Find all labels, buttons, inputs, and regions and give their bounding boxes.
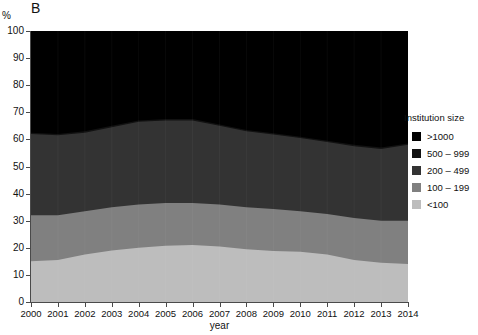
- x-axis-tick: [246, 303, 247, 307]
- x-axis-tick: [273, 303, 274, 307]
- panel-letter: B: [31, 0, 40, 16]
- legend-swatch-icon: [412, 149, 421, 158]
- x-axis-tick: [85, 303, 86, 307]
- x-axis-tick: [381, 303, 382, 307]
- y-axis-tick-label: 100: [0, 26, 24, 36]
- figure-panel-b: B % 0102030405060708090100 2000200120022…: [0, 0, 478, 335]
- y-axis-tick: [26, 85, 30, 86]
- x-axis-tick: [408, 303, 409, 307]
- y-axis-tick: [26, 221, 30, 222]
- y-axis-tick-label: 0: [0, 297, 24, 307]
- plot-svg: [31, 31, 408, 302]
- x-axis-tick: [166, 303, 167, 307]
- legend-items: >1000500 – 999200 – 499100 – 199<100: [404, 128, 478, 213]
- legend-item-label: <100: [427, 199, 448, 210]
- y-axis-tick-label: 50: [0, 162, 24, 172]
- x-axis-tick: [300, 303, 301, 307]
- x-axis-tick: [31, 303, 32, 307]
- x-axis-tick: [193, 303, 194, 307]
- y-axis-tick-label: 80: [0, 80, 24, 90]
- y-axis-tick-label: 70: [0, 107, 24, 117]
- legend: Institution size >1000500 – 999200 – 499…: [404, 112, 478, 213]
- legend-item: 500 – 999: [404, 145, 478, 162]
- y-axis-tick: [26, 248, 30, 249]
- legend-item-label: 200 – 499: [427, 165, 469, 176]
- legend-item: 100 – 199: [404, 179, 478, 196]
- y-axis-tick-label: 10: [0, 270, 24, 280]
- y-axis-tick-labels: 0102030405060708090100: [0, 0, 24, 335]
- y-axis-tick-label: 20: [0, 243, 24, 253]
- legend-swatch-icon: [412, 166, 421, 175]
- y-axis-tick-label: 90: [0, 53, 24, 63]
- x-axis-tick: [58, 303, 59, 307]
- x-axis-tick: [327, 303, 328, 307]
- x-axis-tick: [112, 303, 113, 307]
- x-axis-tick-label: 2014: [391, 308, 425, 319]
- y-axis-tick: [26, 275, 30, 276]
- x-axis-title: year: [31, 320, 408, 331]
- y-axis-tick: [26, 139, 30, 140]
- y-axis-tick: [26, 194, 30, 195]
- legend-swatch-icon: [412, 132, 421, 141]
- y-axis-tick: [26, 302, 30, 303]
- y-axis-tick: [26, 167, 30, 168]
- x-axis-tick: [139, 303, 140, 307]
- legend-item: 200 – 499: [404, 162, 478, 179]
- legend-item-label: 100 – 199: [427, 182, 469, 193]
- y-axis-tick: [26, 58, 30, 59]
- x-axis-tick: [220, 303, 221, 307]
- legend-item: >1000: [404, 128, 478, 145]
- y-axis-tick-label: 60: [0, 134, 24, 144]
- x-axis-tick: [354, 303, 355, 307]
- stacked-area-plot: [31, 31, 408, 302]
- y-axis-tick-label: 40: [0, 189, 24, 199]
- y-axis-line: [30, 31, 31, 303]
- legend-item: <100: [404, 196, 478, 213]
- legend-item-label: >1000: [427, 131, 454, 142]
- y-axis-tick: [26, 112, 30, 113]
- legend-item-label: 500 – 999: [427, 148, 469, 159]
- legend-title: Institution size: [404, 112, 478, 123]
- legend-swatch-icon: [412, 183, 421, 192]
- y-axis-tick: [26, 31, 30, 32]
- y-axis-tick-label: 30: [0, 216, 24, 226]
- legend-swatch-icon: [412, 200, 421, 209]
